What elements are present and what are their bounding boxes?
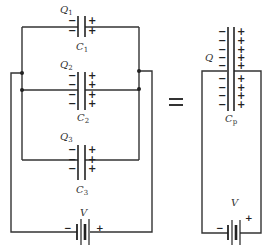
junction-dot xyxy=(137,69,141,73)
junction-dot xyxy=(20,71,24,75)
right-circuit: − − − − − − − − − + + + + + + + + + Q xyxy=(202,26,261,245)
minus-signs: − − − − − − − − − xyxy=(218,26,226,110)
charge-label-q2: Q2 xyxy=(60,59,73,72)
voltage-label: V xyxy=(231,197,240,208)
minus-sign: − xyxy=(68,98,76,109)
capacitor-cp: − − − − − − − − − + + + + + + + + + Q xyxy=(205,26,245,126)
equals-sign xyxy=(169,98,183,106)
charge-label-q: Q xyxy=(205,52,213,63)
capacitance-label-c2: C2 xyxy=(77,112,89,125)
svg-text:+: + xyxy=(237,99,245,110)
battery-minus-sign: − xyxy=(64,223,72,233)
capacitor-c1: − − + + Q1 C1 xyxy=(60,4,96,54)
battery-right: V − + xyxy=(216,197,253,245)
plus-sign: + xyxy=(88,25,96,36)
capacitance-label-cp: Cp xyxy=(225,113,238,126)
battery-minus-sign: − xyxy=(216,223,224,233)
outer-right-wire xyxy=(90,71,152,232)
voltage-label: V xyxy=(80,207,89,218)
capacitance-label-c3: C3 xyxy=(76,184,88,197)
plus-signs: + + + + + + + + + xyxy=(237,26,245,110)
left-circuit: − − + + Q1 C1 − − − − + + + + Q2 C2 − xyxy=(11,4,152,245)
capacitance-label-c1: C1 xyxy=(76,41,88,54)
capacitor-c3: − − − + + + Q3 C3 xyxy=(60,131,96,197)
battery-plus-sign: + xyxy=(96,223,104,233)
plus-sign: + xyxy=(88,98,96,109)
charge-label-q3: Q3 xyxy=(60,131,73,144)
plus-sign: + xyxy=(88,163,96,174)
svg-text:−: − xyxy=(218,60,226,71)
minus-sign: − xyxy=(68,25,76,36)
svg-text:−: − xyxy=(218,99,226,110)
minus-sign: − xyxy=(68,163,76,174)
battery-left: V − + xyxy=(64,207,104,245)
parallel-capacitor-diagram: − − + + Q1 C1 − − − − + + + + Q2 C2 − xyxy=(0,0,273,247)
battery-plus-sign: + xyxy=(245,213,253,223)
charge-label-q1: Q1 xyxy=(60,4,73,17)
junction-dot xyxy=(20,88,24,92)
capacitor-c2: − − − − + + + + Q2 C2 xyxy=(60,59,96,125)
junction-dot xyxy=(137,87,141,91)
svg-text:+: + xyxy=(237,60,245,71)
